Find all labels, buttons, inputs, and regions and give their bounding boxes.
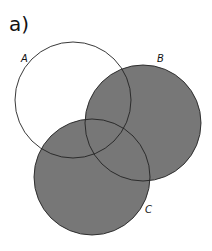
set-c-fill [34, 119, 150, 235]
venn-diagram-svg: a) A B C [0, 0, 212, 251]
set-a-label: A [20, 53, 28, 64]
set-c-label: C [145, 204, 152, 215]
venn-diagram-figure: a) A B C [0, 0, 212, 251]
panel-label: a) [9, 12, 29, 36]
set-b-label: B [157, 53, 164, 64]
